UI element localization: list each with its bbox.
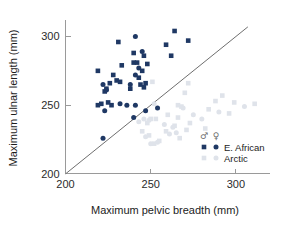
data-point-circle [133,103,138,108]
reference-line [66,27,248,174]
data-point-circle [174,130,179,135]
data-point-square [140,129,145,134]
data-point-square [220,93,225,98]
y-axis-title: Maximum ulnar length (mm) [7,30,19,167]
data-point-square [252,102,257,107]
data-point-square [188,121,193,126]
data-point-circle [181,105,186,110]
data-point-square [116,40,121,45]
data-point-circle [136,66,141,71]
male-symbol-icon: ♂ [200,131,208,141]
data-point-circle [133,72,138,77]
data-point-square [232,100,237,105]
data-point-circle [216,110,221,115]
data-point-square [128,86,133,91]
data-point-circle [162,122,167,127]
data-point-circle [104,88,109,93]
x-tick-label: 200 [56,178,74,190]
data-point-circle [124,103,129,108]
x-axis-title: Maximum pelvic breadth (mm) [91,204,239,216]
data-point-circle [167,132,172,137]
data-point-square [172,29,177,34]
data-point-square [96,69,101,74]
data-point-circle [133,34,138,39]
x-tick-label: 300 [227,178,245,190]
data-point-square [186,81,191,86]
data-point-square [176,115,181,120]
legend-label: Arctic [224,153,248,164]
data-point-circle [136,119,141,124]
data-point-square [177,136,182,141]
data-point-circle [191,112,196,117]
data-point-square [206,107,211,112]
data-point-circle [140,49,145,54]
data-point-circle [152,101,157,106]
data-point-square [183,91,188,96]
data-point-circle [101,136,106,141]
data-point-square [145,62,150,67]
data-point-circle [128,82,133,87]
data-point-circle [141,116,146,121]
chart-legend: ♂♀E. AfricanArctic [200,131,265,164]
data-point-circle [199,116,204,121]
identity-reference-line [66,27,248,174]
data-point-square [184,128,189,133]
data-point-circle [101,82,106,87]
legend-marker-circle [214,156,219,161]
data-point-circle [131,115,136,120]
data-point-square [109,103,114,108]
y-tick-label: 250 [41,99,59,111]
data-point-square [150,80,155,85]
legend-marker-square [202,145,207,150]
plot-canvas: 200250300200250300 ♂♀E. AfricanArctic Ma… [0,0,283,225]
y-tick-label: 300 [41,30,59,42]
data-point-square [111,73,116,78]
data-point-square [154,117,159,122]
data-point-square [114,78,119,83]
data-point-circle [147,118,152,123]
legend-label: E. African [224,142,265,153]
data-point-square [96,103,101,108]
data-point-square [143,81,148,86]
legend-marker-square [202,156,207,161]
data-point-square [131,51,136,56]
female-symbol-icon: ♀ [213,131,220,141]
data-point-square [227,111,232,116]
data-point-circle [155,140,160,145]
data-point-square [119,63,124,68]
data-point-circle [148,141,153,146]
data-point-square [186,38,191,43]
data-point-circle [143,108,148,113]
data-point-circle [143,134,148,139]
data-point-circle [102,108,107,113]
legend-marker-circle [214,145,219,150]
data-point-square [108,81,113,86]
data-point-circle [170,125,175,130]
data-point-circle [155,105,160,110]
data-point-circle [118,101,123,106]
x-tick-label: 250 [142,178,160,190]
data-point-square [138,82,143,87]
data-point-square [142,53,147,58]
data-point-square [164,42,169,47]
series-e-african-male [96,29,191,108]
series-arctic-male [140,80,257,146]
data-point-square [165,113,170,118]
data-points [96,29,257,146]
data-point-square [135,60,140,65]
data-point-square [213,99,218,104]
data-point-square [169,53,174,58]
data-point-circle [242,104,247,109]
scatter-plot-figure: 200250300200250300 ♂♀E. AfricanArctic Ma… [0,0,283,225]
